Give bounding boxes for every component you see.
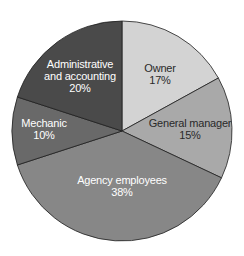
slice-percent: 10% (33, 129, 55, 141)
slice-percent: 20% (69, 82, 91, 94)
slice-name: Administrative (47, 58, 113, 70)
slice-name: General manager (149, 117, 232, 129)
slice-name: Agency employees (77, 174, 167, 186)
slice-name: Owner (144, 62, 176, 74)
slice-name: and accounting (44, 70, 116, 82)
slice-percent: 38% (111, 186, 133, 198)
slice-percent: 15% (179, 129, 201, 141)
slice-name: Mechanic (21, 117, 67, 129)
pie-chart: Owner17%General manager15%Agency employe… (0, 0, 244, 256)
slice-percent: 17% (149, 74, 171, 86)
